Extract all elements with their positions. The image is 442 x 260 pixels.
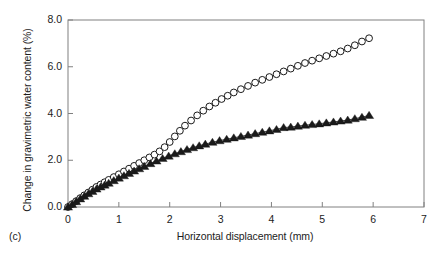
data-point-open-circle (182, 122, 189, 129)
y-axis-tick-label: 6.0 (34, 60, 62, 72)
data-point-open-circle (252, 79, 259, 86)
data-point-open-circle (266, 74, 273, 81)
data-point-open-circle (273, 71, 280, 78)
y-axis-tick-label: 2.0 (34, 153, 62, 165)
data-point-open-circle (359, 38, 366, 45)
data-point-filled-triangle (364, 111, 373, 118)
x-axis-tick-label: 4 (261, 213, 281, 225)
data-point-open-circle (259, 76, 266, 83)
data-point-open-circle (238, 86, 245, 93)
y-axis-title: Change in gravimetric water content (%) (20, 20, 34, 220)
data-point-open-circle (309, 57, 316, 64)
data-point-open-circle (337, 48, 344, 55)
data-point-open-circle (245, 83, 252, 90)
y-axis-tick-label: 0.0 (34, 200, 62, 212)
data-point-open-circle (200, 107, 207, 114)
data-point-open-circle (351, 42, 358, 49)
data-point-open-circle (171, 133, 178, 140)
data-point-open-circle (194, 112, 201, 119)
data-point-open-circle (316, 55, 323, 62)
data-point-open-circle (287, 65, 294, 72)
x-axis-tick-label: 0 (58, 213, 78, 225)
series-line (68, 115, 369, 207)
figure-panel-c: Change in gravimetric water content (%) … (0, 0, 442, 260)
data-point-open-circle (188, 117, 195, 124)
x-axis-tick-label: 1 (109, 213, 129, 225)
x-axis-tick-label: 2 (160, 213, 180, 225)
data-point-open-circle (212, 99, 219, 106)
data-point-open-circle (366, 35, 373, 42)
data-point-open-circle (206, 103, 213, 110)
data-point-open-circle (166, 139, 173, 146)
panel-caption: (c) (9, 230, 21, 242)
x-axis-tick-label: 5 (312, 213, 332, 225)
data-point-open-circle (230, 89, 237, 96)
data-point-open-circle (302, 60, 309, 67)
data-point-open-circle (294, 62, 301, 69)
data-point-open-circle (323, 53, 330, 60)
y-axis-tick-label: 8.0 (34, 13, 62, 25)
y-axis-tick-label: 4.0 (34, 107, 62, 119)
x-axis-tick-label: 7 (414, 213, 434, 225)
data-series-filled-triangle-series (63, 111, 373, 210)
data-point-open-circle (330, 50, 337, 57)
x-axis-tick-label: 3 (211, 213, 231, 225)
data-point-open-circle (280, 68, 287, 75)
data-point-open-circle (344, 45, 351, 52)
x-axis-tick-label: 6 (363, 213, 383, 225)
x-axis-title: Horizontal displacement (mm) (160, 230, 330, 242)
